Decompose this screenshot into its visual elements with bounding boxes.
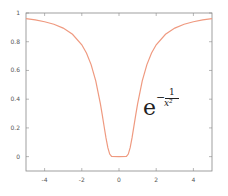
x-tick-label: -2 xyxy=(79,176,85,183)
plot-area: -4-202400.20.40.60.81 xyxy=(0,0,228,196)
x-tick-label: 0 xyxy=(117,176,121,183)
ticks: -4-202400.20.40.60.81 xyxy=(10,9,212,183)
function-curve xyxy=(26,19,212,157)
y-tick-label: 0.8 xyxy=(10,38,20,45)
x-tick-label: 4 xyxy=(191,176,195,183)
y-tick-label: 0.4 xyxy=(10,95,20,102)
x-tick-label: 2 xyxy=(154,176,158,183)
x-tick-label: -4 xyxy=(42,176,48,183)
y-tick-label: 0.6 xyxy=(10,66,20,73)
formula-denominator: x² xyxy=(164,99,173,108)
y-tick-label: 1 xyxy=(16,9,20,16)
axes-frame xyxy=(26,13,212,171)
y-tick-label: 0 xyxy=(16,153,20,160)
formula-base: e xyxy=(143,97,156,119)
formula-numerator: 1 xyxy=(169,88,175,97)
y-tick-label: 0.2 xyxy=(10,124,20,131)
